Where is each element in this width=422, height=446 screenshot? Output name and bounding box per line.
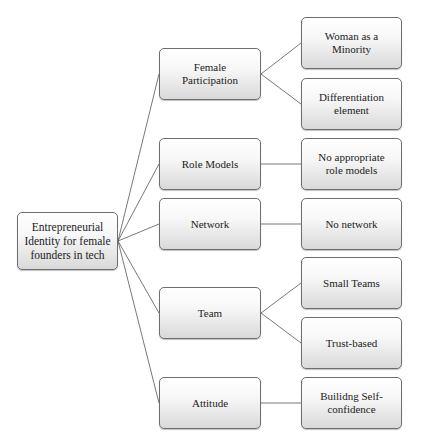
root-node: Entrepreneurial Identity for female foun… (17, 212, 118, 270)
node-label: No appropriate role models (312, 151, 392, 177)
node-woman-as-minority: Woman as a Minority (301, 17, 402, 69)
root-label: Entrepreneurial Identity for female foun… (22, 220, 113, 262)
node-attitude: Attitude (159, 377, 261, 429)
node-no-network: No network (301, 198, 402, 250)
node-label: Trust-based (326, 337, 378, 350)
node-label: Team (198, 307, 222, 320)
node-role-models: Role Models (159, 138, 261, 190)
node-trust-based: Trust-based (301, 317, 402, 369)
node-label: Woman as a Minority (321, 30, 383, 56)
node-label: Network (191, 218, 230, 231)
node-no-appropriate-role-models: No appropriate role models (301, 138, 402, 190)
node-label: Attitude (192, 397, 228, 410)
node-label: No network (325, 218, 377, 231)
node-label: Female Participation (175, 61, 245, 87)
node-label: Differentiation element (317, 91, 387, 117)
node-team: Team (159, 287, 261, 339)
node-label: Small Teams (323, 277, 380, 290)
node-differentiation-element: Differentiation element (301, 78, 402, 130)
node-label: Role Models (182, 158, 239, 171)
node-building-self-confidence: Builidng Self-confidence (301, 377, 402, 429)
node-network: Network (159, 198, 261, 250)
node-label: Builidng Self-confidence (319, 390, 385, 416)
node-small-teams: Small Teams (301, 257, 402, 309)
node-female-participation: Female Participation (159, 48, 261, 100)
